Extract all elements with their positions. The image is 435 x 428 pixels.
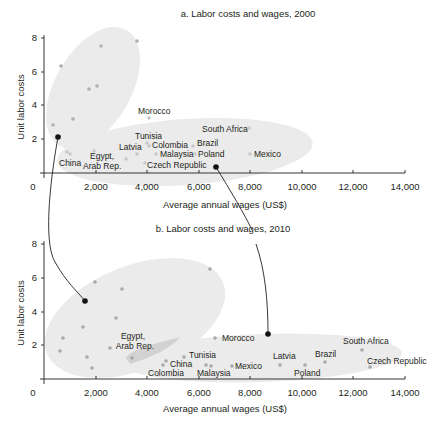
connector-low-cost (216, 167, 268, 334)
label-morocco: Morocco (138, 106, 171, 116)
x-axis-label: Average annual wages (US$) (163, 199, 287, 210)
panel-b-2010: b. Labor costs and wages, 2010 8 6 4 2 0… (15, 223, 427, 414)
x-tick-0: 0 (30, 181, 35, 192)
y-tick-6: 6 (32, 272, 37, 283)
label-tunisia: Tunisia (189, 350, 216, 360)
x-tick-2000: 2,000 (84, 387, 108, 398)
x-tick-6000: 6,000 (187, 181, 211, 192)
label-egypt-2: Arab Rep. (83, 161, 121, 171)
label-mexico: Mexico (254, 149, 281, 159)
x-tick-10000: 10,000 (287, 181, 316, 192)
y-tick-4: 4 (32, 306, 37, 317)
label-china: China (59, 158, 81, 168)
label-south-africa: South Africa (202, 124, 248, 134)
label-malaysia: Malaysia (160, 149, 194, 159)
y-tick-8: 8 (32, 32, 37, 43)
y-tick-6: 6 (32, 66, 37, 77)
x-tick-8000: 8,000 (238, 387, 262, 398)
x-tick-4000: 4,000 (135, 387, 159, 398)
y-tick-4: 4 (32, 99, 37, 110)
label-egypt-2: Arab Rep. (116, 341, 154, 351)
label-czech: Czech Republic (147, 160, 207, 170)
panel-a-2000: a. Labor costs and wages, 2000 8 6 4 2 0… (15, 8, 420, 210)
x-tick-14000: 14,000 (390, 387, 419, 398)
y-axis-label: Unit labor costs (15, 74, 26, 140)
label-malaysia: Malaysia (197, 368, 231, 378)
x-tick-12000: 12,000 (338, 387, 367, 398)
label-colombia: Colombia (148, 368, 184, 378)
x-tick-0: 0 (30, 387, 35, 398)
label-poland: Poland (294, 368, 321, 378)
y-tick-2: 2 (32, 133, 37, 144)
panel-a-title: a. Labor costs and wages, 2000 (181, 8, 316, 19)
x-axis-label: Average annual wages (US$) (163, 403, 287, 414)
x-tick-12000: 12,000 (338, 181, 367, 192)
label-czech: Czech Republic (367, 356, 427, 366)
y-axis-label: Unit labor costs (15, 280, 26, 346)
x-tick-10000: 10,000 (287, 387, 316, 398)
x-tick-2000: 2,000 (84, 181, 108, 192)
x-tick-14000: 14,000 (390, 181, 419, 192)
label-poland: Poland (198, 149, 225, 159)
label-china: China (170, 359, 192, 369)
panel-b-title: b. Labor costs and wages, 2010 (156, 223, 291, 234)
label-egypt-1: Egypt, (121, 331, 145, 341)
label-latvia: Latvia (273, 351, 296, 361)
label-egypt-1: Egypt, (90, 151, 114, 161)
x-tick-4000: 4,000 (135, 181, 159, 192)
label-brazil: Brazil (197, 138, 218, 148)
label-morocco: Morocco (222, 333, 255, 343)
label-brazil: Brazil (315, 349, 336, 359)
x-tick-6000: 6,000 (187, 387, 211, 398)
x-tick-8000: 8,000 (238, 181, 262, 192)
label-latvia: Latvia (119, 142, 142, 152)
label-mexico: Mexico (235, 361, 262, 371)
y-tick-2: 2 (32, 339, 37, 350)
y-tick-8: 8 (32, 238, 37, 249)
label-south-africa: South Africa (343, 336, 389, 346)
figure: a. Labor costs and wages, 2000 8 6 4 2 0… (0, 0, 435, 428)
